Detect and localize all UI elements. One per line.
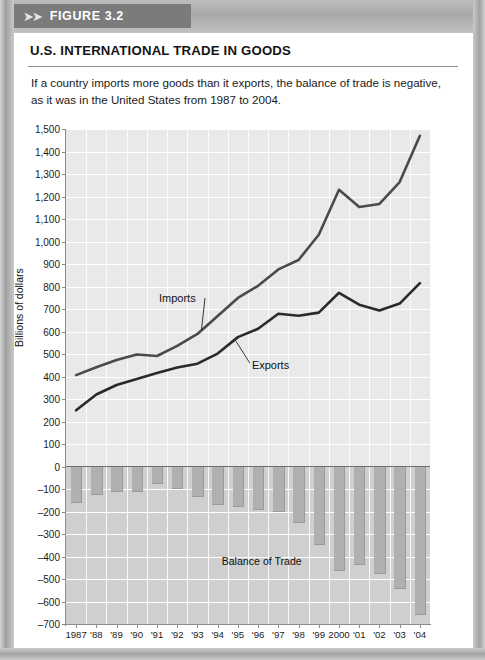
x-axis-tick-label: '88: [90, 629, 103, 640]
x-axis-tick-mark: [299, 624, 300, 628]
page-title: U.S. INTERNATIONAL TRADE IN GOODS: [30, 43, 291, 58]
x-axis-tick-label: '99: [313, 629, 326, 640]
figure-tab: ➤➤ FIGURE 3.2: [14, 4, 191, 28]
y-axis-tick-mark: [62, 354, 66, 355]
x-axis-tick-label: '96: [252, 629, 265, 640]
y-axis-tick-label: –500: [38, 574, 60, 585]
x-axis-tick-mark: [379, 624, 380, 628]
y-axis-tick-mark: [62, 129, 66, 130]
x-axis-tick-mark: [339, 624, 340, 628]
x-axis-tick-mark: [218, 624, 219, 628]
y-axis-tick-label: 1,500: [35, 124, 60, 135]
y-axis-tick-mark: [62, 512, 66, 513]
x-axis-tick-mark: [137, 624, 138, 628]
x-axis-tick-mark: [157, 624, 158, 628]
y-axis-tick-label: –600: [38, 596, 60, 607]
chart-container: Billions of dollars 1,5001,4001,3001,200…: [14, 119, 473, 639]
y-axis-tick-label: 700: [43, 304, 60, 315]
exports-series-label: Exports: [252, 359, 289, 371]
y-axis-tick-label: 200: [43, 416, 60, 427]
y-axis-tick-mark: [62, 242, 66, 243]
x-axis-tick-mark: [197, 624, 198, 628]
x-axis-tick-mark: [117, 624, 118, 628]
y-axis-tick-label: 100: [43, 439, 60, 450]
double-arrow-icon: ➤➤: [23, 10, 41, 23]
x-axis-tick-label: '02: [373, 629, 386, 640]
y-axis-tick-label: 900: [43, 259, 60, 270]
y-axis-tick-mark: [62, 579, 66, 580]
page-frame-bottom: [0, 648, 485, 660]
zero-baseline: [66, 466, 430, 467]
y-axis-tick-mark: [62, 624, 66, 625]
y-axis-tick-label: 500: [43, 349, 60, 360]
balance-of-trade-label: Balance of Trade: [222, 555, 302, 567]
plot-area: 1,5001,4001,3001,2001,1001,0009008007006…: [66, 129, 430, 629]
x-axis-tick-mark: [359, 624, 360, 628]
x-axis-tick-label: 1987: [65, 629, 86, 640]
x-axis-tick-label: '04: [414, 629, 427, 640]
y-axis-tick-mark: [62, 467, 66, 468]
y-axis-tick-label: 600: [43, 326, 60, 337]
y-axis-tick-label: 800: [43, 281, 60, 292]
y-axis-tick-label: 0: [54, 461, 60, 472]
y-axis-tick-label: –700: [38, 619, 60, 630]
y-axis-tick-label: 1,100: [35, 214, 60, 225]
figure-card: U.S. INTERNATIONAL TRADE IN GOODS If a c…: [14, 33, 473, 648]
y-axis-tick-label: 1,300: [35, 169, 60, 180]
y-axis-tick-mark: [62, 332, 66, 333]
x-axis-tick-label: '97: [272, 629, 285, 640]
y-axis-tick-mark: [62, 489, 66, 490]
y-axis-tick-label: –400: [38, 551, 60, 562]
y-axis-tick-label: 300: [43, 394, 60, 405]
y-axis-tick-mark: [62, 309, 66, 310]
y-axis-title: Billions of dollars: [13, 268, 25, 347]
x-axis-tick-label: '98: [292, 629, 305, 640]
y-axis-tick-label: –200: [38, 506, 60, 517]
y-axis-tick-mark: [62, 602, 66, 603]
y-axis-tick-label: 1,200: [35, 191, 60, 202]
page-frame-right: [473, 0, 485, 660]
page-frame-left: [0, 0, 14, 660]
y-axis-tick-label: –300: [38, 529, 60, 540]
y-axis-tick-mark: [62, 264, 66, 265]
y-axis-tick-label: 1,400: [35, 146, 60, 157]
y-axis-tick-label: –100: [38, 484, 60, 495]
figure-page: ➤➤ FIGURE 3.2 U.S. INTERNATIONAL TRADE I…: [0, 0, 485, 660]
x-axis-tick-mark: [238, 624, 239, 628]
y-axis-tick-mark: [62, 534, 66, 535]
x-axis-tick-label: '94: [211, 629, 224, 640]
y-axis-tick-mark: [62, 197, 66, 198]
x-axis-tick-label: '90: [131, 629, 144, 640]
line-series: [76, 283, 420, 410]
annotation-leader-line: [201, 298, 205, 330]
y-axis-line: [65, 129, 66, 626]
x-axis-tick-mark: [319, 624, 320, 628]
y-axis-tick-mark: [62, 377, 66, 378]
y-axis-tick-mark: [62, 152, 66, 153]
x-axis-tick-label: '89: [110, 629, 123, 640]
x-axis-tick-label: '03: [393, 629, 406, 640]
x-axis-tick-mark: [258, 624, 259, 628]
imports-series-label: Imports: [159, 292, 196, 304]
annotation-leader-line: [236, 341, 250, 363]
x-axis-tick-label: '95: [232, 629, 245, 640]
y-axis-tick-label: 400: [43, 371, 60, 382]
figure-caption: If a country imports more goods than it …: [31, 75, 455, 109]
x-axis-tick-label: '01: [353, 629, 366, 640]
x-axis-line: [66, 624, 431, 625]
y-axis-tick-label: 1,000: [35, 236, 60, 247]
y-axis-tick-mark: [62, 422, 66, 423]
x-axis-tick-label: 2000: [328, 629, 349, 640]
y-axis-tick-mark: [62, 444, 66, 445]
y-axis-tick-mark: [62, 557, 66, 558]
x-axis-tick-mark: [76, 624, 77, 628]
x-axis-tick-mark: [420, 624, 421, 628]
title-divider: [28, 66, 458, 67]
x-axis-tick-label: '92: [171, 629, 184, 640]
y-axis-tick-mark: [62, 287, 66, 288]
x-axis-tick-mark: [177, 624, 178, 628]
x-axis-tick-mark: [96, 624, 97, 628]
y-axis-tick-mark: [62, 174, 66, 175]
x-axis-tick-mark: [278, 624, 279, 628]
y-axis-tick-mark: [62, 219, 66, 220]
